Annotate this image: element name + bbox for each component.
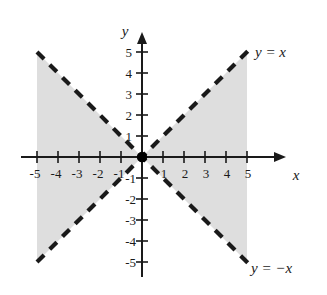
- y-tick-label--5: -5: [125, 255, 136, 270]
- x-tick-label-5: 5: [245, 166, 252, 181]
- annotation-line-y-equals-x: y = x: [253, 44, 286, 60]
- y-tick-label--4: -4: [125, 234, 136, 249]
- y-tick-label-3: 3: [126, 87, 133, 102]
- y-tick-label-2: 2: [126, 108, 133, 123]
- y-axis-label: y: [120, 23, 129, 39]
- x-tick-label-1: 1: [161, 166, 168, 181]
- coordinate-plane-figure: -5 -4 -3 -2 -1 1 2 3 4 5 5 4 3 2 1 -1 -2…: [0, 0, 327, 295]
- x-tick-label-2: 2: [182, 166, 189, 181]
- y-tick-label-4: 4: [126, 66, 133, 81]
- y-tick-label-1: 1: [126, 129, 133, 144]
- x-tick-label--5: -5: [30, 166, 41, 181]
- y-axis-arrowhead: [137, 32, 147, 44]
- y-tick-label-5: 5: [126, 45, 133, 60]
- x-tick-label-3: 3: [203, 166, 210, 181]
- x-axis-arrowhead: [274, 152, 286, 162]
- y-tick-label--1: -1: [125, 171, 136, 186]
- y-tick-label--2: -2: [125, 192, 136, 207]
- x-tick-label--1: -1: [114, 166, 125, 181]
- x-tick-label--3: -3: [72, 166, 83, 181]
- x-tick-label--4: -4: [51, 166, 62, 181]
- graph-canvas: -5 -4 -3 -2 -1 1 2 3 4 5 5 4 3 2 1 -1 -2…: [0, 0, 327, 295]
- annotation-line-y-equals-minus-x: y = −x: [249, 260, 292, 276]
- y-tick-label--3: -3: [125, 213, 136, 228]
- x-tick-label--2: -2: [93, 166, 104, 181]
- origin-point-marker: [137, 152, 147, 162]
- x-tick-label-4: 4: [224, 166, 231, 181]
- x-axis-label: x: [292, 167, 300, 183]
